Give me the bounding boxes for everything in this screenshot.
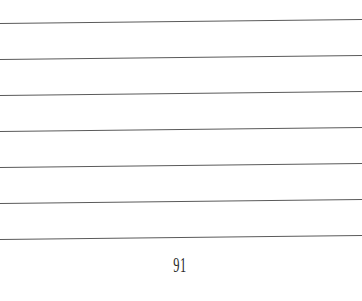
- rule-line-4: [0, 127, 362, 132]
- rule-line-3: [0, 91, 362, 96]
- rule-line-5: [0, 163, 362, 168]
- rule-line-6: [0, 199, 362, 204]
- rule-line-7: [0, 235, 362, 240]
- rule-line-1: [0, 19, 362, 24]
- rule-line-2: [0, 55, 362, 60]
- page-number: 91: [68, 254, 291, 277]
